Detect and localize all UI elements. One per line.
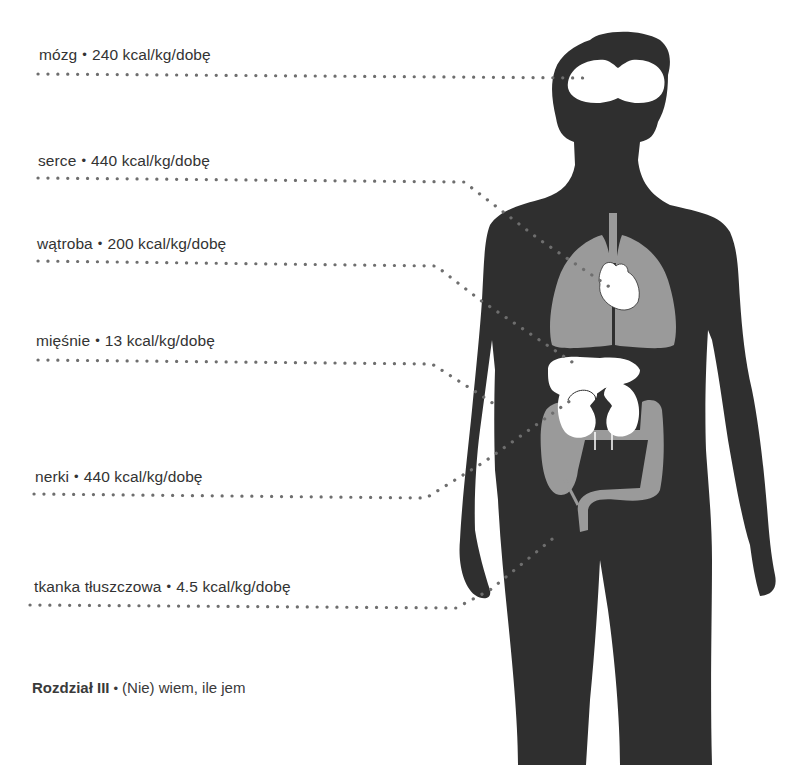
- bullet-separator: •: [82, 46, 87, 64]
- organ-value: 240: [92, 46, 118, 63]
- label-liver: wątroba•200 kcal/kg/dobę: [37, 235, 226, 253]
- organ-value: 13: [105, 332, 122, 349]
- organ-name: nerki: [35, 468, 69, 485]
- bullet-separator: •: [95, 332, 100, 350]
- organ-unit: kcal/kg/dobę: [138, 235, 226, 252]
- chapter-footer: Rozdział III•(Nie) wiem, ile jem: [32, 679, 245, 696]
- organ-name: serce: [38, 152, 76, 169]
- chapter-number: Rozdział III: [32, 679, 110, 696]
- organ-unit: kcal/kg/dobę: [114, 468, 202, 485]
- bullet-separator: •: [166, 578, 171, 596]
- organ-name: tkanka tłuszczowa: [34, 578, 161, 595]
- organ-unit: kcal/kg/dobę: [202, 578, 290, 595]
- left-kidney-shape: [558, 381, 597, 438]
- label-brain: mózg•240 kcal/kg/dobę: [39, 46, 211, 64]
- body-illustration: [0, 0, 796, 765]
- organ-name: mięśnie: [36, 332, 90, 349]
- leader-line-muscles: [38, 360, 500, 408]
- organ-unit: kcal/kg/dobę: [123, 46, 211, 63]
- organ-name: mózg: [39, 46, 77, 63]
- label-adipose-tissue: tkanka tłuszczowa•4.5 kcal/kg/dobę: [34, 578, 291, 596]
- organ-unit: kcal/kg/dobę: [127, 332, 215, 349]
- bullet-separator: •: [81, 152, 86, 170]
- chapter-title: (Nie) wiem, ile jem: [122, 679, 245, 696]
- footer-separator: •: [114, 681, 119, 696]
- leader-line-brain: [38, 74, 586, 78]
- label-kidneys: nerki•440 kcal/kg/dobę: [35, 468, 203, 486]
- label-heart: serce•440 kcal/kg/dobę: [38, 152, 210, 170]
- organ-value: 440: [91, 152, 117, 169]
- organ-value: 4.5: [176, 578, 198, 595]
- bullet-separator: •: [74, 468, 79, 486]
- trachea-shape: [609, 213, 617, 263]
- label-muscles: mięśnie•13 kcal/kg/dobę: [36, 332, 215, 350]
- organ-name: wątroba: [37, 235, 93, 252]
- organ-value: 440: [84, 468, 110, 485]
- organ-energy-diagram: mózg•240 kcal/kg/dobę serce•440 kcal/kg/…: [0, 0, 796, 765]
- organ-unit: kcal/kg/dobę: [122, 152, 210, 169]
- bullet-separator: •: [98, 235, 103, 253]
- organ-value: 200: [108, 235, 134, 252]
